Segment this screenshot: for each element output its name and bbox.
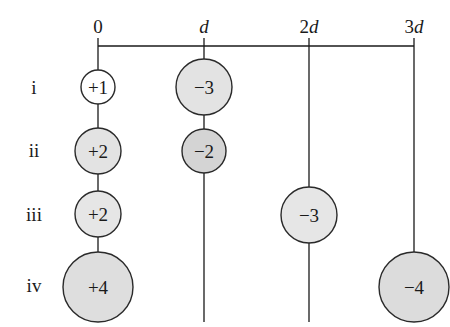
row-labels: i ii iii iv: [26, 77, 42, 296]
charge-ii-d: −2: [182, 129, 226, 173]
charge-value: +2: [88, 141, 108, 162]
charge-iv-0: +4: [63, 252, 133, 322]
axis-lines: [98, 38, 414, 322]
charge-value: +2: [88, 204, 108, 225]
column-label-3d-coefficient: 3: [405, 16, 415, 37]
charge-configuration-diagram: 0 d 2d 3d i ii iii iv +1 −3 +2: [0, 0, 450, 327]
charge-iii-0: +2: [75, 191, 121, 237]
column-label-d: d: [199, 16, 209, 37]
charge-value: +4: [88, 277, 109, 298]
column-labels: 0 d 2d 3d: [93, 16, 424, 37]
charge-iv-3d: −4: [379, 252, 449, 322]
column-label-2d-variable: d: [309, 16, 319, 37]
charge-value: +1: [88, 77, 108, 98]
column-label-2d: 2d: [300, 16, 320, 37]
charge-iii-2d: −3: [281, 187, 337, 243]
column-label-0: 0: [93, 16, 103, 37]
charge-i-0: +1: [81, 70, 115, 104]
column-label-3d-variable: d: [414, 16, 424, 37]
row-label-iii: iii: [26, 204, 42, 225]
charge-value: −2: [194, 141, 214, 162]
charge-value: −3: [299, 205, 319, 226]
charge-value: −3: [194, 77, 214, 98]
column-label-2d-coefficient: 2: [300, 16, 310, 37]
charge-value: −4: [404, 277, 425, 298]
charge-ii-0: +2: [75, 128, 121, 174]
charge-i-d: −3: [176, 59, 232, 115]
row-label-iv: iv: [27, 275, 42, 296]
row-label-i: i: [31, 77, 36, 98]
column-label-3d: 3d: [405, 16, 425, 37]
row-label-ii: ii: [29, 140, 40, 161]
